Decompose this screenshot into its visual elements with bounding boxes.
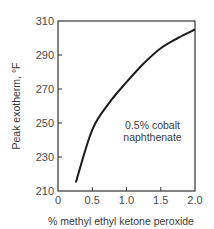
y-tick-label: 310	[36, 15, 54, 27]
x-axis-label: % methyl ethyl ketone peroxide	[48, 215, 194, 227]
annotation-line-2: naphthenate	[123, 131, 182, 143]
x-tick-label: 2.0	[187, 194, 202, 206]
y-tick-label: 230	[36, 151, 54, 163]
annotation-line-1: 0.5% cobalt	[125, 119, 180, 131]
y-tick-label: 250	[36, 117, 54, 129]
x-tick-label: 1.5	[153, 194, 168, 206]
plot-frame	[58, 21, 195, 191]
y-tick-label: 210	[36, 185, 54, 197]
y-tick-label: 290	[36, 49, 54, 61]
x-axis-ticks: 00.51.01.52.0	[55, 187, 203, 206]
x-tick-label: 0	[55, 194, 61, 206]
x-tick-label: 1.0	[119, 194, 134, 206]
plot-border	[58, 21, 195, 191]
chart: 210230250270290310 00.51.01.52.0 0.5% co…	[0, 0, 214, 229]
x-tick-label: 0.5	[85, 194, 100, 206]
y-tick-label: 270	[36, 83, 54, 95]
data-curve	[76, 30, 195, 183]
y-axis-label: Peak exotherm, °F	[10, 62, 22, 149]
